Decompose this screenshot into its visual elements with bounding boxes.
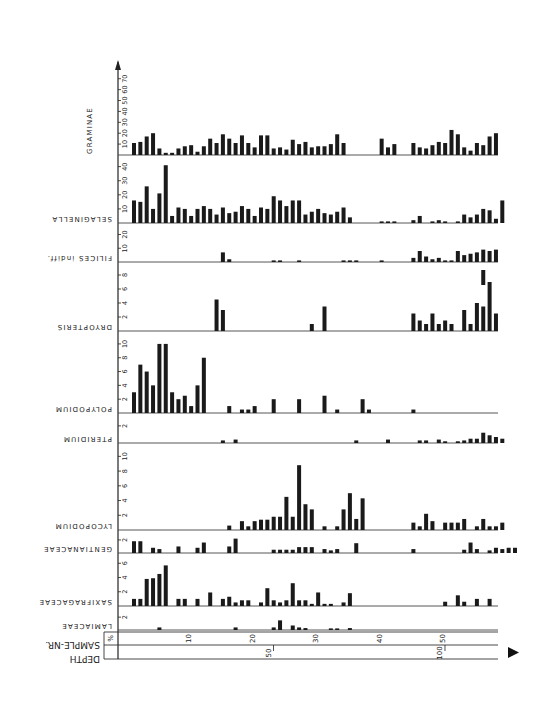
sample-tick-label: 10 (185, 634, 193, 643)
bar (246, 209, 250, 223)
bar (297, 399, 301, 413)
bar (462, 147, 466, 155)
bar (469, 151, 473, 155)
bar (272, 517, 276, 530)
bar (456, 523, 460, 530)
bar (430, 314, 434, 332)
bar (278, 147, 282, 155)
y-tick-label: 2 (121, 424, 129, 428)
bar (418, 147, 422, 155)
bar (183, 146, 187, 155)
bar (354, 519, 358, 530)
bar (253, 406, 257, 413)
bar (475, 252, 479, 262)
bar (500, 549, 504, 553)
bar (488, 435, 492, 443)
bar (259, 602, 263, 606)
bar (323, 526, 327, 530)
bar (310, 547, 314, 553)
bar (443, 321, 447, 332)
panel-graminae: 10203040506070GRAMINAE (86, 75, 498, 155)
bar (240, 600, 244, 606)
bar (215, 143, 219, 155)
bar (462, 519, 466, 530)
bar (475, 526, 479, 530)
y-tick-label: 2 (121, 397, 129, 401)
bar (253, 521, 257, 530)
bar (278, 620, 282, 630)
bar (259, 135, 263, 155)
bar (164, 165, 168, 223)
bar (329, 550, 333, 553)
bar (367, 410, 371, 413)
y-tick-label: 30 (121, 118, 129, 126)
bar (443, 441, 447, 443)
bar (215, 300, 219, 332)
panel-pteridium: 2PTERIDIUM (63, 424, 505, 443)
bar (342, 602, 346, 606)
bar (354, 543, 358, 553)
bar (196, 209, 200, 223)
bar (297, 465, 301, 530)
bar (202, 146, 206, 155)
bar (227, 259, 231, 262)
bar (418, 440, 422, 443)
bar (265, 520, 269, 530)
bar (272, 627, 276, 630)
bar (196, 152, 200, 155)
bar (164, 153, 168, 155)
bar (265, 588, 269, 606)
bar (488, 282, 492, 331)
bar (246, 410, 250, 413)
bar (462, 602, 466, 606)
panel-label: DRYOPTERIS (56, 323, 112, 331)
bar (208, 209, 212, 223)
bar (272, 399, 276, 413)
bar (411, 523, 415, 530)
bar (500, 439, 504, 443)
bar (284, 497, 288, 530)
bar (488, 136, 492, 155)
panel-lycopodium: 246810LYCOPODIUM (54, 452, 504, 530)
y-tick-label: 60 (121, 85, 129, 93)
bar (450, 130, 454, 155)
bar (494, 133, 498, 155)
bar (151, 209, 155, 223)
bar (424, 148, 428, 155)
bar (176, 208, 180, 224)
bar (183, 209, 187, 223)
bar (380, 260, 384, 262)
bar (234, 627, 238, 630)
bar (246, 143, 250, 155)
bar (291, 626, 295, 631)
bar (475, 303, 479, 331)
bar (157, 148, 161, 155)
bar (284, 206, 288, 223)
panel-label: GENTIANACEAE (43, 545, 112, 553)
depth-tick-label: 50 (265, 649, 273, 658)
bar (164, 565, 168, 606)
bar (221, 134, 225, 155)
bar (323, 549, 327, 553)
bar (494, 526, 498, 530)
bar (424, 324, 428, 331)
bar (481, 250, 485, 262)
bar (145, 372, 149, 413)
bar (386, 221, 390, 223)
bar (227, 139, 231, 155)
bar (234, 212, 238, 223)
bar (488, 251, 492, 262)
bar (418, 526, 422, 530)
bar (297, 600, 301, 606)
bar (335, 549, 339, 553)
bar-broken-upper (481, 270, 485, 285)
bar (297, 144, 301, 155)
bar (157, 344, 161, 413)
bar (246, 600, 250, 606)
bar (481, 307, 485, 332)
panel-label: GRAMINAE (86, 107, 94, 154)
y-tick-label: 10 (121, 244, 129, 252)
bar (272, 260, 276, 262)
y-tick-label: 6 (121, 287, 129, 291)
bar (418, 251, 422, 262)
